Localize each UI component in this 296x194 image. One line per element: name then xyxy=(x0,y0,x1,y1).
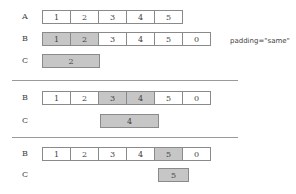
array-b: 1 2 3 4 5 0 xyxy=(42,32,211,46)
divider xyxy=(12,80,238,81)
output-cell: 2 xyxy=(42,54,100,68)
cell-highlighted: 2 xyxy=(70,32,99,46)
cell: 5 xyxy=(154,10,183,24)
cell-padding: 0 xyxy=(182,147,211,161)
array-b: 1 2 3 4 5 0 xyxy=(42,91,211,105)
row-label-c: C xyxy=(20,56,30,65)
cell: 2 xyxy=(70,147,99,161)
cell: 5 xyxy=(154,91,183,105)
output-cell: 5 xyxy=(158,168,189,182)
padding-note: padding="same" xyxy=(230,37,290,45)
cell: 3 xyxy=(98,32,127,46)
array-b: 1 2 3 4 5 0 xyxy=(42,147,211,161)
output-cell: 4 xyxy=(100,114,159,128)
cell: 1 xyxy=(42,91,71,105)
array-a: 1 2 3 4 5 xyxy=(42,10,183,24)
row-label-b: B xyxy=(20,149,30,158)
row-label-a: A xyxy=(20,12,30,21)
row-label-b: B xyxy=(20,93,30,102)
cell-highlighted: 5 xyxy=(154,147,183,161)
cell: 3 xyxy=(98,10,127,24)
cell: 3 xyxy=(98,147,127,161)
divider xyxy=(12,137,238,138)
cell: 1 xyxy=(42,10,71,24)
cell: 2 xyxy=(70,91,99,105)
cell: 1 xyxy=(42,147,71,161)
row-label-b: B xyxy=(20,34,30,43)
row-label-c: C xyxy=(20,170,30,179)
cell-highlighted: 1 xyxy=(42,32,71,46)
cell: 4 xyxy=(126,32,155,46)
cell: 4 xyxy=(126,147,155,161)
cell: 2 xyxy=(70,10,99,24)
cell-padding: 0 xyxy=(182,32,211,46)
cell-highlighted: 3 xyxy=(98,91,127,105)
cell-padding: 0 xyxy=(182,91,211,105)
cell-highlighted: 4 xyxy=(126,91,155,105)
cell: 4 xyxy=(126,10,155,24)
row-label-c: C xyxy=(20,116,30,125)
cell: 5 xyxy=(154,32,183,46)
